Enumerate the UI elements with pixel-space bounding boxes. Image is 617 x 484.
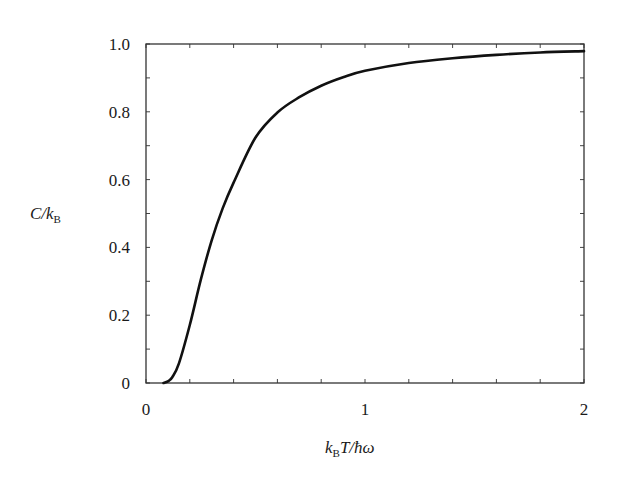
y-tick-label: 0 [122,374,131,393]
chart: 012 00.20.40.60.81.0 C/kB kBT/ħω [0,0,617,484]
x-tick-label: 2 [580,400,589,419]
y-tick-label: 1.0 [109,35,130,54]
y-tick-label: 0.8 [109,103,130,122]
x-tick-label: 0 [142,400,151,419]
data-curve [164,51,584,383]
minor-ticks [146,44,584,383]
y-tick-label: 0.2 [109,306,130,325]
x-tick-labels: 012 [142,400,589,419]
y-tick-labels: 00.20.40.60.81.0 [109,35,131,393]
plot-frame [146,44,584,383]
y-axis-label: C/kB [30,204,61,225]
y-tick-label: 0.6 [109,171,130,190]
y-tick-label: 0.4 [109,238,131,257]
x-axis-label: kBT/ħω [325,438,375,459]
x-tick-label: 1 [361,400,370,419]
